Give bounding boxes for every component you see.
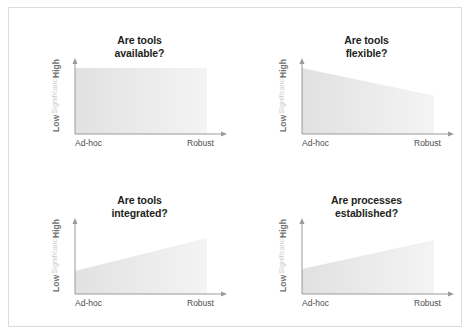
chart-panel-are-tools-flexible: Are tools flexible? Significance High Lo… <box>236 8 463 168</box>
panel-title-line-1: Are tools <box>274 34 459 47</box>
panel-title-line-1: Are tools <box>47 194 232 207</box>
panel-title-line-1: Are tools <box>47 34 232 47</box>
plot-area: Significance High Low Ad-hoc Robust <box>264 56 460 156</box>
plot-svg <box>37 216 233 316</box>
plot-svg <box>264 56 460 156</box>
area-shape <box>302 240 434 294</box>
area-shape <box>302 68 434 134</box>
plot-area: Significance High Low Ad-hoc Robust <box>37 216 233 316</box>
chart-panel-are-tools-integrated: Are tools integrated? Significance High … <box>9 168 236 328</box>
figure-frame: Are tools available? Significance High L… <box>8 7 462 327</box>
chart-panel-are-processes-established: Are processes established? Significance … <box>236 168 463 328</box>
area-shape <box>75 238 207 294</box>
plot-svg <box>37 56 233 156</box>
area-shape <box>75 68 207 134</box>
chart-grid: Are tools available? Significance High L… <box>9 8 463 328</box>
plot-area: Significance High Low Ad-hoc Robust <box>37 56 233 156</box>
plot-area: Significance High Low Ad-hoc Robust <box>264 216 460 316</box>
chart-panel-are-tools-available: Are tools available? Significance High L… <box>9 8 236 168</box>
panel-title-line-1: Are processes <box>274 194 459 207</box>
plot-svg <box>264 216 460 316</box>
